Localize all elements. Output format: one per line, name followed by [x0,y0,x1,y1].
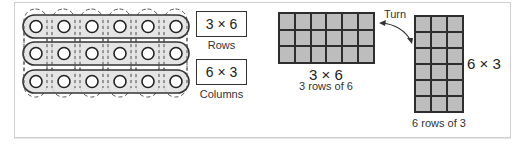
vertical-grid-6x3 [414,15,464,113]
horizontal-grid-3x6 [278,12,375,64]
columns-expression: 6 × 3 [206,64,238,80]
columns-expression-box: 6 × 3 [196,59,247,85]
columns-caption: Columns [189,88,254,100]
rows-caption: Rows [196,39,247,51]
turn-arrow-icon [382,23,411,41]
turn-label: Turn [383,8,407,20]
vertical-grid-expression: 6 × 3 [467,55,499,72]
turn-arrow-heads [379,20,413,44]
rows-expression-box: 3 × 6 [196,11,247,37]
vertical-grid-caption: 6 rows of 3 [409,117,469,129]
rows-expression: 3 × 6 [206,16,238,32]
horizontal-grid-caption: 3 rows of 6 [281,80,371,92]
